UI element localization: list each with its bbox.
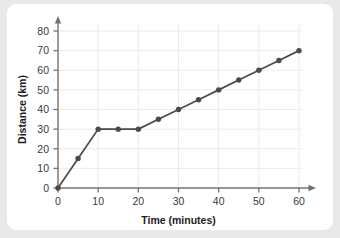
y-axis-tick-labels: 01020304050607080 — [37, 25, 49, 194]
x-tick-label: 30 — [173, 195, 185, 207]
y-tick-label: 40 — [37, 103, 49, 115]
x-tick-label: 20 — [132, 195, 144, 207]
y-axis-title: Distance (km) — [16, 75, 28, 144]
data-point — [176, 107, 181, 112]
data-point — [156, 117, 161, 122]
data-point — [95, 126, 100, 131]
vertical-gridlines — [98, 24, 299, 188]
data-point — [296, 48, 301, 53]
x-tick-label: 10 — [92, 195, 104, 207]
y-tick-label: 30 — [37, 123, 49, 135]
axis-lines — [55, 16, 316, 191]
data-point — [136, 126, 141, 131]
chart-plot-area: 01020304050607080 0102030405060 Time (mi… — [7, 4, 333, 230]
x-tick-label: 60 — [293, 195, 305, 207]
y-tick-label: 80 — [37, 25, 49, 37]
chart-card: 01020304050607080 0102030405060 Time (mi… — [7, 4, 333, 230]
x-tick-label: 50 — [253, 195, 265, 207]
y-tick-label: 60 — [37, 64, 49, 76]
data-point — [216, 87, 221, 92]
distance-time-line-chart: 01020304050607080 0102030405060 Time (mi… — [7, 4, 333, 230]
x-axis-arrow-icon — [309, 185, 317, 191]
data-point — [196, 97, 201, 102]
horizontal-gridlines — [58, 31, 302, 168]
data-point — [116, 126, 121, 131]
y-tick-label: 0 — [43, 182, 49, 194]
y-tick-label: 50 — [37, 84, 49, 96]
data-point — [55, 185, 60, 190]
y-tick-label: 20 — [37, 143, 49, 155]
x-axis-tick-labels: 0102030405060 — [55, 195, 305, 207]
data-point — [236, 77, 241, 82]
y-axis-arrow-icon — [55, 16, 61, 24]
data-point — [256, 68, 261, 73]
data-point — [276, 58, 281, 63]
y-tick-label: 70 — [37, 44, 49, 56]
x-tick-label: 0 — [55, 195, 61, 207]
data-point — [75, 156, 80, 161]
x-axis-title: Time (minutes) — [141, 214, 215, 226]
y-tick-label: 10 — [37, 162, 49, 174]
x-tick-label: 40 — [213, 195, 225, 207]
